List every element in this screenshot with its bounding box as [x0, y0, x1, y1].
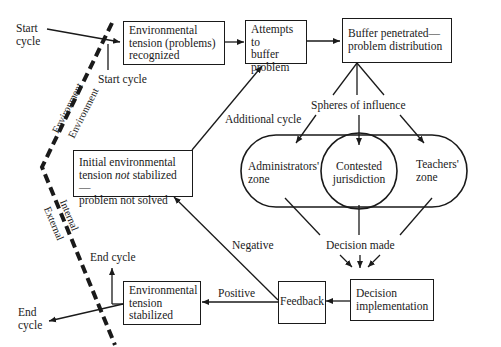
box-line: recognized [129, 49, 219, 62]
decision-made-label: Decision made [326, 239, 395, 252]
additional-cycle-label: Additional cycle [225, 113, 301, 126]
box-line: tension not stabilized— [79, 169, 187, 194]
box-line: tension (problems) [129, 37, 219, 50]
spheres-of-influence-label: Spheres of influence [311, 99, 406, 112]
env-tension-recognized-box: Environmental tension (problems) recogni… [123, 21, 225, 65]
negative-label: Negative [232, 239, 274, 252]
zone-line: Teachers' [416, 158, 459, 171]
label-line: End [18, 306, 42, 319]
label-line: Start [16, 22, 40, 35]
attempts-to-buffer-box: Attempts to buffer problem [245, 20, 307, 64]
start-cycle-outer-label: Start cycle [16, 22, 40, 47]
text-span: tension [79, 169, 115, 181]
box-line: Buffer penetrated— [348, 27, 446, 40]
box-line: problem [251, 61, 301, 74]
end-cycle-inner-label: End cycle [90, 251, 136, 264]
positive-label: Positive [218, 287, 255, 300]
box-line: Feedback [280, 295, 324, 307]
box-line: implementation [356, 300, 428, 313]
env-tension-stabilized-box: Environmental tension stabilized [123, 281, 201, 325]
emphasis-not: not [115, 169, 130, 181]
start-cycle-inner-label: Start cycle [98, 73, 147, 86]
initial-tension-not-stabilized-box: Initial environmental tension not stabil… [73, 150, 193, 197]
feedback-box: Feedback [278, 281, 326, 324]
box-line: Decision [356, 287, 428, 300]
buffer-penetrated-box: Buffer penetrated— problem distribution [342, 18, 452, 63]
zone-line: zone [416, 171, 459, 184]
box-line: Environmental [129, 24, 219, 37]
zone-line: Contested [325, 160, 393, 173]
box-line: problem distribution [348, 40, 446, 53]
decision-implementation-box: Decision implementation [350, 279, 434, 321]
label-line: cycle [16, 35, 40, 48]
label-line: cycle [18, 319, 42, 332]
box-line: problem not solved [79, 194, 187, 207]
zone-line: jurisdiction [325, 173, 393, 186]
box-line: Initial environmental [79, 156, 187, 169]
zone-line: zone [244, 173, 314, 186]
teachers-zone-label: Teachers' zone [416, 158, 459, 183]
zone-line: Administrators' [244, 160, 314, 173]
box-line: Attempts to [251, 23, 301, 48]
box-line: tension [129, 297, 195, 310]
contested-jurisdiction-label: Contested jurisdiction [325, 160, 393, 185]
box-line: buffer [251, 48, 301, 61]
administrators-zone-label: Administrators' zone [244, 160, 314, 185]
end-cycle-outer-label: End cycle [18, 306, 42, 331]
box-line: stabilized [129, 309, 195, 322]
box-line: Environmental [129, 284, 195, 297]
